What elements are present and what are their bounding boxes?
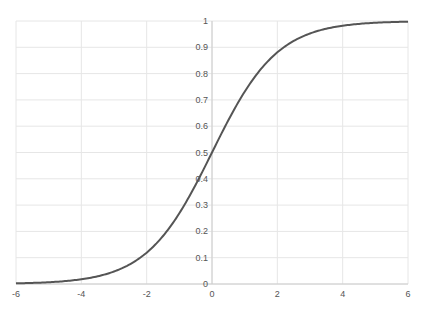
y-tick-label: 0.6	[195, 121, 208, 131]
x-tick-label: 2	[275, 289, 280, 299]
x-tick-label: -4	[77, 289, 85, 299]
y-tick-label: 1	[203, 16, 208, 26]
x-axis-tick-labels: -6-4-20246	[12, 289, 411, 299]
y-tick-label: 0.5	[195, 148, 208, 158]
y-tick-label: 0.3	[195, 200, 208, 210]
sigmoid-line-chart: -6-4-20246 00.10.20.30.40.50.60.70.80.91	[0, 0, 428, 310]
x-tick-label: 0	[209, 289, 214, 299]
x-tick-label: -2	[143, 289, 151, 299]
y-tick-label: 0.1	[195, 253, 208, 263]
y-tick-label: 0.2	[195, 226, 208, 236]
y-axis-tick-labels: 00.10.20.30.40.50.60.70.80.91	[195, 16, 208, 289]
y-tick-label: 0	[203, 279, 208, 289]
y-tick-label: 0.8	[195, 69, 208, 79]
x-tick-label: 4	[340, 289, 345, 299]
x-tick-label: -6	[12, 289, 20, 299]
y-tick-label: 0.9	[195, 42, 208, 52]
y-tick-label: 0.7	[195, 95, 208, 105]
x-tick-label: 6	[405, 289, 410, 299]
